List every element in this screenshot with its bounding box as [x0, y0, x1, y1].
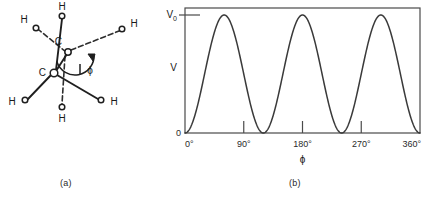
h-front-lower-left-node	[22, 97, 28, 103]
y-axis-max-label: V0	[166, 9, 177, 22]
potential-energy-chart-panel: V0 V 0 0° 90° 180° 270° 360° ϕ	[155, 0, 432, 170]
h-front-top-node	[59, 13, 65, 19]
caption-a: (a)	[60, 178, 72, 188]
h-front-lower-right-label: H	[110, 96, 117, 107]
h-rear-upper-right-node	[119, 26, 125, 32]
h-rear-upper-left-label: H	[20, 14, 27, 25]
y-axis-title: V	[170, 62, 177, 73]
h-rear-bottom-label: H	[58, 113, 65, 124]
x-tick-label-360: 360°	[402, 139, 421, 149]
x-tick-label-0: 0°	[185, 139, 194, 149]
h-rear-upper-right-label: H	[130, 18, 137, 29]
x-tick-label-270: 270°	[352, 139, 371, 149]
caption-b: (b)	[289, 178, 301, 188]
x-axis-title: ϕ	[300, 154, 306, 165]
x-tick-marks	[244, 121, 362, 133]
rear-carbon-label: C	[55, 36, 62, 47]
bond-rear-upper-right-dashed	[71, 31, 119, 50]
newman-projection-svg: C C H H H H H H ϕ	[0, 0, 175, 170]
potential-energy-chart-svg: V0 V 0 0° 90° 180° 270° 360° ϕ	[155, 0, 432, 170]
h-rear-upper-left-node	[33, 25, 39, 31]
potential-energy-curve	[185, 15, 420, 133]
rear-bonds	[39, 30, 119, 104]
bond-front-lower-right	[57, 75, 98, 99]
y-axis-max-label-subscript: 0	[173, 15, 177, 22]
front-carbon-node	[50, 69, 58, 77]
y-axis-min-label: 0	[176, 128, 181, 138]
x-tick-label-90: 90°	[237, 139, 251, 149]
plot-frame	[185, 8, 420, 133]
figure-root: C C H H H H H H ϕ V0 V	[0, 0, 432, 202]
bond-front-lower-left	[28, 75, 51, 99]
rear-carbon-node	[65, 49, 71, 55]
h-front-lower-right-node	[98, 97, 104, 103]
dihedral-angle-label: ϕ	[87, 65, 93, 76]
molecule-diagram-panel: C C H H H H H H ϕ	[0, 0, 175, 170]
h-front-lower-left-label: H	[8, 96, 15, 107]
front-carbon-label: C	[39, 67, 46, 78]
x-tick-label-180: 180°	[293, 139, 312, 149]
h-rear-bottom-node	[59, 104, 65, 110]
h-front-top-label: H	[58, 1, 65, 12]
